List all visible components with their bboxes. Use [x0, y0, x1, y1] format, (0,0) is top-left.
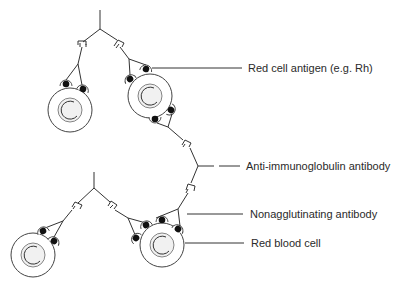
antigen-icon [140, 64, 153, 73]
label-red-blood-cell: Red blood cell [251, 237, 321, 250]
red-blood-cell-top-left [48, 88, 92, 132]
label-red-cell-antigen: Red cell antigen (e.g. Rh) [248, 62, 373, 75]
label-anti-immunoglobulin-antibody: Anti-immunoglobulin antibody [246, 160, 390, 173]
bottom-anti-immunoglobulin [45, 172, 146, 237]
label-nonagglutinating-antibody: Nonagglutinating antibody [250, 208, 377, 221]
coombs-diagram [0, 0, 420, 285]
antigen-icon [60, 80, 72, 87]
red-blood-cell-top-right [128, 74, 172, 118]
middle-antibodies [157, 114, 214, 209]
top-anti-immunoglobulin [66, 10, 146, 85]
